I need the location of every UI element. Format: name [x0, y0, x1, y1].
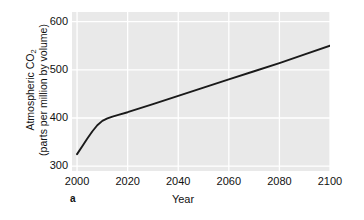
x-tick-label-2060: 2060 — [207, 175, 251, 188]
y-tick-label-500: 500 — [34, 64, 68, 75]
x-axis-title: Year — [161, 193, 205, 205]
figure-panel-a: Atmospheric CO2 (parts per million by vo… — [0, 0, 364, 220]
y-tick-label-600: 600 — [34, 16, 68, 27]
x-tick-label-2020: 2020 — [106, 175, 150, 188]
x-tick-label-2100: 2100 — [308, 175, 352, 188]
x-tick-label-2040: 2040 — [156, 175, 200, 188]
x-tick-label-2080: 2080 — [257, 175, 301, 188]
panel-label-a: a — [70, 193, 76, 204]
gridlines — [72, 12, 330, 171]
y-tick-label-300: 300 — [34, 160, 68, 171]
y-tick-label-400: 400 — [34, 112, 68, 123]
plot-area — [72, 12, 330, 171]
x-axis-tick-labels: 200020202040206020802100 — [0, 175, 364, 191]
chart-svg — [72, 12, 330, 171]
co2-data-line — [77, 46, 330, 154]
x-tick-label-2000: 2000 — [55, 175, 99, 188]
